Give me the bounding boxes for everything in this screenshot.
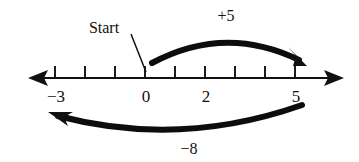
jump-minus-8-arc	[58, 105, 302, 130]
number-line-axis	[28, 70, 344, 86]
jump-plus-5-arc	[152, 43, 299, 63]
tick-labels: −3 0 2 5	[47, 87, 300, 106]
jump-minus-8: −8	[48, 105, 302, 157]
tick-marks	[55, 66, 295, 78]
jump-plus-5-label: +5	[217, 7, 234, 24]
tick-label-2: 2	[202, 87, 211, 106]
start-leader-line-icon	[131, 34, 146, 72]
start-label: Start	[89, 19, 120, 36]
number-line-canvas: −3 0 2 5 Start +5 −8	[0, 0, 359, 162]
jump-minus-8-label: −8	[180, 140, 197, 157]
jump-plus-5: +5	[152, 7, 307, 66]
tick-label-0: 0	[142, 87, 151, 106]
start-annotation: Start	[89, 19, 146, 72]
tick-label-neg3: −3	[47, 87, 65, 106]
number-line-figure: −3 0 2 5 Start +5 −8	[0, 0, 359, 162]
